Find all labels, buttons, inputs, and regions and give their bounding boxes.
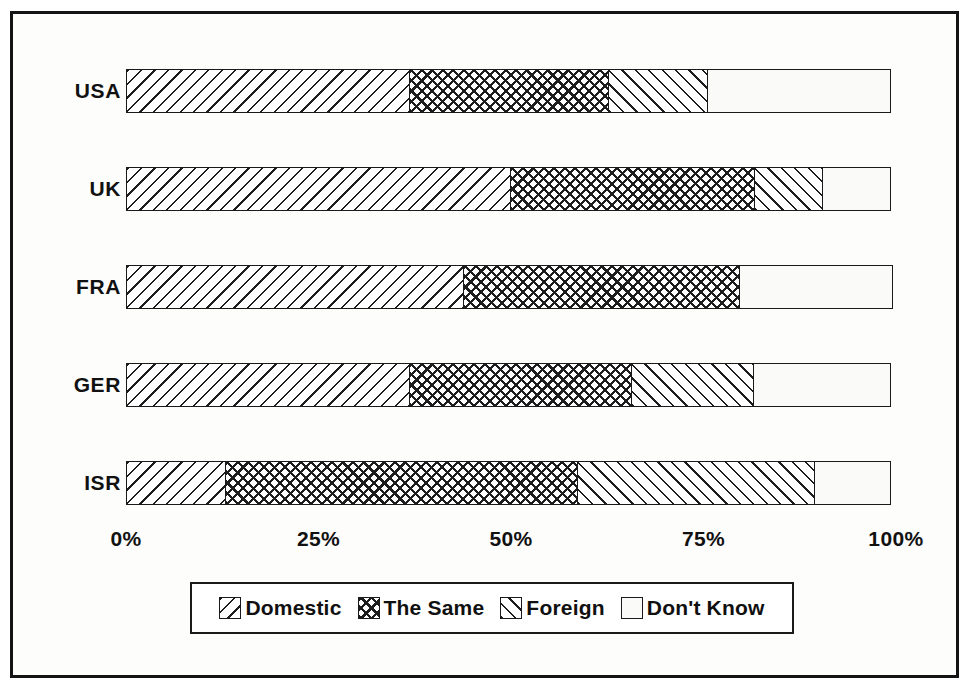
bar-segment-don-t-know [814,461,891,505]
category-label: UK [13,167,121,211]
plot-area: USAUKFRAGERISR [13,14,956,675]
bar-segment-the-same [409,69,609,113]
chart-legend: DomesticThe SameForeignDon't Know [190,582,794,634]
bar-segment-the-same [463,265,740,309]
bar-segment-don-t-know [822,167,891,211]
bar-segment-don-t-know [753,363,892,407]
stacked-bar [126,69,896,113]
bar-row-isr: ISR [13,461,956,505]
bar-segment-domestic [126,363,411,407]
x-tick-label: 100% [868,527,923,551]
bar-segment-foreign [608,69,708,113]
x-tick-label: 75% [682,527,725,551]
chart-frame: USAUKFRAGERISR 0%25%50%75%100% DomesticT… [10,11,959,678]
bar-row-ger: GER [13,363,956,407]
stacked-bar [126,363,896,407]
stacked-bar [126,461,896,505]
legend-label: The Same [384,596,485,620]
bar-segment-foreign [577,461,816,505]
stacked-bar [126,167,896,211]
bar-segment-domestic [126,265,465,309]
legend-label: Domestic [245,596,341,620]
bar-row-usa: USA [13,69,956,113]
legend-swatch-icon [621,597,643,619]
legend-label: Foreign [526,596,604,620]
bar-segment-the-same [510,167,756,211]
bar-segment-domestic [126,167,511,211]
category-label: USA [13,69,121,113]
legend-item-the-same[interactable]: The Same [358,596,485,620]
bar-segment-don-t-know [739,265,893,309]
bar-segment-don-t-know [707,69,892,113]
bar-row-fra: FRA [13,265,956,309]
x-tick-label: 0% [110,527,141,551]
bar-segment-foreign [631,363,754,407]
x-axis: 0%25%50%75%100% [126,527,896,557]
legend-swatch-icon [219,597,241,619]
category-label: GER [13,363,121,407]
bar-segment-foreign [754,167,823,211]
legend-swatch-icon [358,597,380,619]
legend-swatch-icon [500,597,522,619]
x-tick-label: 50% [489,527,532,551]
legend-item-foreign[interactable]: Foreign [500,596,604,620]
legend-item-domestic[interactable]: Domestic [219,596,341,620]
bar-segment-domestic [126,69,411,113]
bar-segment-the-same [409,363,632,407]
legend-label: Don't Know [647,596,765,620]
bar-segment-the-same [225,461,579,505]
category-label: FRA [13,265,121,309]
bar-row-uk: UK [13,167,956,211]
stacked-bar [126,265,896,309]
category-label: ISR [13,461,121,505]
x-tick-label: 25% [297,527,340,551]
legend-item-don-t-know[interactable]: Don't Know [621,596,765,620]
bar-segment-domestic [126,461,226,505]
